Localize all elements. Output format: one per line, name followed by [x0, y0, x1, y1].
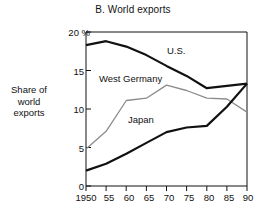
series-label-us: U.S. — [167, 45, 185, 56]
series-label-japan: Japan — [128, 114, 154, 125]
series-line-japan — [86, 84, 247, 171]
series-line-west-germany — [86, 85, 247, 149]
chart-figure: B. World exports Share of world exports … — [0, 0, 266, 220]
x-axis-ticks — [86, 186, 247, 191]
y-axis-ticks — [86, 32, 91, 186]
plot-area — [0, 0, 266, 220]
series-label-west-germany: West Germany — [99, 73, 162, 84]
